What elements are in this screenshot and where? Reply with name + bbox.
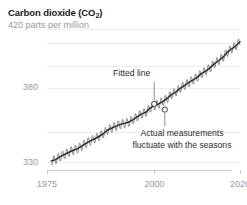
x-axis-tick-label: 1975 [27,179,67,189]
annotation-actual-line1: Actual measurements [118,128,246,138]
y-axis-tick-label: 380 [12,82,38,92]
x-axis-tick-label: 2020 [220,179,247,189]
annotation-fitted-line: Fitted line [113,68,150,78]
x-axis [47,170,240,174]
x-axis-tick-label: 2000 [134,179,174,189]
marker-actual-measurement [162,107,167,112]
chart-plot-area [0,0,247,205]
y-axis-tick-label: 330 [12,157,38,167]
marker-fitted-line [152,101,157,106]
annotation-actual-line2: fluctuate with the seasons [118,140,246,150]
chart-root: Carbon dioxide (CO2) 420 parts per milli… [0,0,247,205]
